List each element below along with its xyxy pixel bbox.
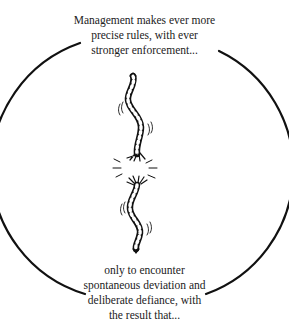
cycle-arc-right <box>206 51 289 294</box>
bottom-caption-line: the result that... <box>0 308 289 323</box>
top-caption: Management makes ever more precise rules… <box>0 13 289 58</box>
top-caption-line: stronger enforcement... <box>0 43 289 58</box>
broken-rope-icon <box>113 73 157 253</box>
snap-burst-icon <box>113 159 157 178</box>
top-caption-line: precise rules, with ever <box>0 28 289 43</box>
rope-lower-segment-icon <box>121 176 152 253</box>
top-caption-line: Management makes ever more <box>0 13 289 28</box>
bottom-caption-line: spontaneous deviation and <box>0 278 289 293</box>
bottom-caption: only to encounter spontaneous deviation … <box>0 263 289 323</box>
cycle-arc-left <box>0 43 85 294</box>
rope-upper-segment-icon <box>119 73 153 161</box>
bottom-caption-line: deliberate defiance, with <box>0 293 289 308</box>
bottom-caption-line: only to encounter <box>0 263 289 278</box>
